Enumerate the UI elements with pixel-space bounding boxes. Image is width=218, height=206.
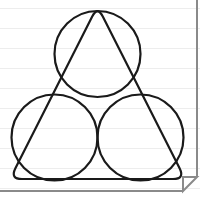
outer-rounded-triangle (14, 11, 182, 179)
notebook-page (0, 0, 218, 206)
bottom-right-circle (98, 95, 184, 181)
figure-shapes (12, 11, 184, 181)
bottom-left-circle (12, 95, 98, 181)
geometry-figure (0, 0, 218, 206)
top-circle (55, 11, 141, 97)
